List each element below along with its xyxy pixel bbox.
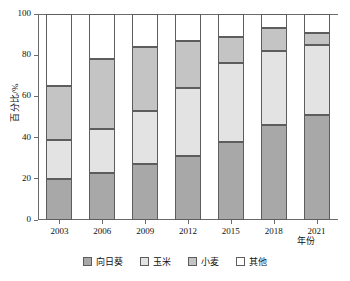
- y-tick-label: 40: [22, 132, 31, 143]
- legend-item[interactable]: 向日葵: [83, 255, 123, 268]
- x-tick-label: 2018: [265, 226, 283, 236]
- legend-label: 向日葵: [96, 255, 123, 268]
- y-axis-title: 百分比/%: [8, 68, 21, 138]
- bar-segment[interactable]: [218, 63, 244, 141]
- bar-segment[interactable]: [304, 14, 330, 33]
- bar-segment[interactable]: [132, 14, 158, 47]
- bar-segment[interactable]: [304, 33, 330, 45]
- legend-label: 小麦: [201, 255, 219, 268]
- bar-segment[interactable]: [261, 28, 287, 51]
- x-tick-label: 2009: [136, 226, 154, 236]
- bar-group[interactable]: [218, 14, 244, 220]
- stacked-bar-chart: 百分比/% 020406080100 200320062009201220152…: [0, 0, 350, 281]
- x-tick-mark: [59, 220, 60, 224]
- x-tick-label: 2012: [179, 226, 197, 236]
- chart-legend: 向日葵玉米小麦其他: [0, 255, 350, 268]
- legend-swatch-icon: [140, 257, 149, 266]
- bar-segment[interactable]: [132, 111, 158, 165]
- bar-group[interactable]: [89, 14, 115, 220]
- y-tick-mark: [34, 55, 38, 56]
- x-tick-label: 2003: [50, 226, 68, 236]
- bar-segment[interactable]: [46, 86, 72, 140]
- x-tick-mark: [317, 220, 318, 224]
- bar-group[interactable]: [261, 14, 287, 220]
- bar-group[interactable]: [132, 14, 158, 220]
- bar-segment[interactable]: [132, 164, 158, 220]
- y-tick-label: 20: [22, 173, 31, 184]
- y-tick-mark: [34, 14, 38, 15]
- bar-segment[interactable]: [46, 179, 72, 220]
- legend-swatch-icon: [236, 257, 245, 266]
- bar-segment[interactable]: [218, 37, 244, 64]
- x-tick-label: 2015: [222, 226, 240, 236]
- y-tick-label: 80: [22, 49, 31, 60]
- plot-area: [38, 14, 338, 220]
- y-tick-label: 60: [22, 90, 31, 101]
- legend-swatch-icon: [83, 257, 92, 266]
- bar-segment[interactable]: [304, 45, 330, 115]
- bar-segment[interactable]: [261, 51, 287, 125]
- bar-segment[interactable]: [261, 125, 287, 220]
- x-tick-mark: [274, 220, 275, 224]
- bar-segment[interactable]: [89, 129, 115, 172]
- y-tick-mark: [34, 137, 38, 138]
- x-tick-mark: [102, 220, 103, 224]
- bar-segment[interactable]: [175, 88, 201, 156]
- legend-swatch-icon: [188, 257, 197, 266]
- bar-group[interactable]: [175, 14, 201, 220]
- bar-segment[interactable]: [89, 59, 115, 129]
- bar-segment[interactable]: [175, 156, 201, 220]
- bar-segment[interactable]: [89, 173, 115, 220]
- legend-label: 玉米: [153, 255, 171, 268]
- bar-segment[interactable]: [218, 14, 244, 37]
- legend-item[interactable]: 其他: [236, 255, 267, 268]
- y-tick-mark: [34, 96, 38, 97]
- bar-group[interactable]: [304, 14, 330, 220]
- bar-segment[interactable]: [175, 14, 201, 41]
- y-tick-mark: [34, 220, 38, 221]
- bar-segment[interactable]: [261, 14, 287, 28]
- bar-segment[interactable]: [218, 142, 244, 220]
- x-tick-label: 2006: [93, 226, 111, 236]
- x-tick-mark: [188, 220, 189, 224]
- x-tick-mark: [145, 220, 146, 224]
- legend-item[interactable]: 玉米: [140, 255, 171, 268]
- bar-segment[interactable]: [46, 14, 72, 86]
- y-tick-label: 0: [27, 214, 32, 225]
- bar-segment[interactable]: [89, 14, 115, 59]
- bar-segment[interactable]: [304, 115, 330, 220]
- bar-segment[interactable]: [46, 140, 72, 179]
- bar-segment[interactable]: [175, 41, 201, 88]
- x-tick-mark: [231, 220, 232, 224]
- y-tick-label: 100: [18, 8, 32, 19]
- bar-segment[interactable]: [132, 47, 158, 111]
- legend-item[interactable]: 小麦: [188, 255, 219, 268]
- bar-group[interactable]: [46, 14, 72, 220]
- legend-label: 其他: [249, 255, 267, 268]
- y-tick-mark: [34, 178, 38, 179]
- x-axis-title: 年份: [297, 234, 315, 247]
